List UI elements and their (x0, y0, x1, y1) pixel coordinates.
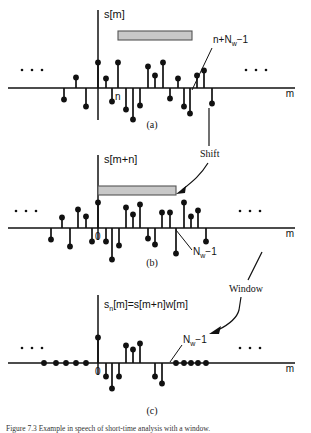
panel-a-right-marker-label: n+Nw−1 (213, 34, 249, 47)
panel-c-origin-label: 0 (95, 366, 101, 377)
svg-text:Nw−1: Nw−1 (183, 334, 207, 347)
panel-b-signal-label: s[m+n] (104, 153, 137, 165)
panel-b-stems (48, 200, 209, 263)
figure-caption: Figure 7.3 Example in speech of short-ti… (6, 424, 306, 433)
panel-b-right-marker-leader (176, 230, 192, 250)
panel-a-axis-label: m (286, 88, 294, 99)
panel-a-left-ellipsis (21, 69, 44, 72)
svg-text:n+Nw−1: n+Nw−1 (213, 34, 249, 47)
panel-b-axis-label: m (286, 228, 294, 239)
panel-a-right-marker-leader (192, 48, 212, 90)
panel-c-axis-label: m (286, 363, 294, 374)
panel-b-origin-label: 0 (95, 231, 101, 242)
panel-c-right-marker-leader (170, 345, 182, 362)
panel-c-window-connector (248, 252, 262, 280)
shift-arrowhead-icon (176, 186, 186, 194)
panel-a-right-ellipsis (245, 69, 268, 72)
panel-c-left-ellipsis (21, 347, 44, 350)
panel-c-right-marker-label: Nw−1 (183, 334, 207, 347)
panel-a-caption: (a) (146, 119, 157, 131)
panel-a-left-marker-label: n (115, 91, 121, 102)
panel-c-right-ellipsis (239, 347, 262, 350)
panel-a-stems (61, 60, 215, 123)
shift-annotation-arrow (182, 163, 208, 190)
panel-a: m s[m] (8, 8, 295, 131)
panel-a-signal-label: s[m] (104, 8, 125, 20)
panel-b-caption: (b) (146, 257, 158, 269)
svg-text:sn[m]=s[m+n]w[m]: sn[m]=s[m+n]w[m] (104, 298, 188, 312)
svg-text:Nw−1: Nw−1 (193, 246, 217, 259)
window-annotation-label: Window (229, 283, 264, 294)
panel-c: m sn[m]=s[m+n]w[m] (8, 252, 295, 417)
panel-b: m s[m+n] (8, 108, 295, 269)
figure-short-time-analysis: m s[m] (0, 0, 311, 433)
panel-b-window-rect (98, 186, 176, 195)
panel-c-caption: (c) (146, 405, 157, 417)
panel-b-right-ellipsis (239, 210, 262, 213)
panel-b-left-ellipsis (15, 210, 38, 213)
window-arrowhead-icon (209, 326, 221, 334)
window-annotation-arrow (218, 297, 241, 330)
panel-a-window-rect (118, 31, 192, 40)
panel-c-signal-label: sn[m]=s[m+n]w[m] (104, 298, 188, 312)
panel-b-right-marker-label: Nw−1 (193, 246, 217, 259)
shift-annotation-label: Shift (200, 148, 220, 159)
